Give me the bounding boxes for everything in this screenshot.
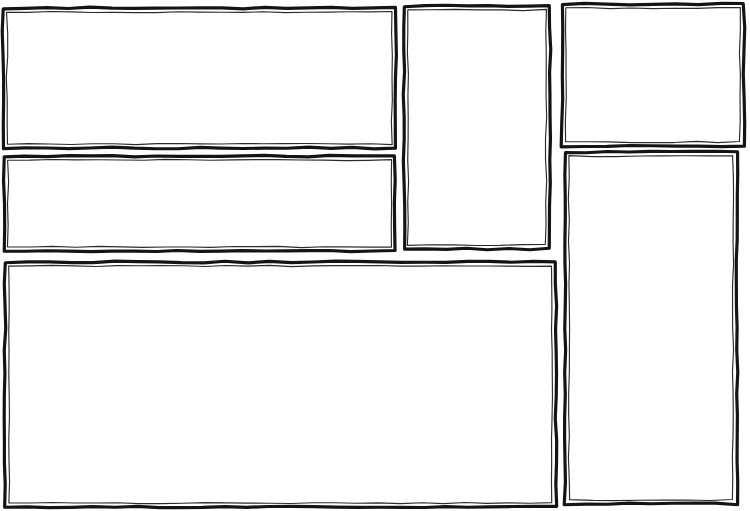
mid-left-panel-surface[interactable] [4,156,395,251]
sketch-surface [0,0,750,511]
bottom-left-panel-surface[interactable] [5,262,556,507]
mid-left-panel[interactable] [4,155,396,251]
top-left-panel[interactable] [2,7,396,149]
middle-tall-panel[interactable] [403,5,551,250]
bottom-right-panel-surface[interactable] [565,152,737,504]
top-right-panel[interactable] [561,3,745,147]
bottom-right-panel[interactable] [564,151,738,505]
top-left-panel-surface[interactable] [3,8,396,148]
middle-tall-panel-surface[interactable] [404,6,550,249]
top-right-panel-surface[interactable] [562,4,744,146]
bottom-left-panel[interactable] [4,261,557,508]
wireframe-canvas [0,0,750,511]
